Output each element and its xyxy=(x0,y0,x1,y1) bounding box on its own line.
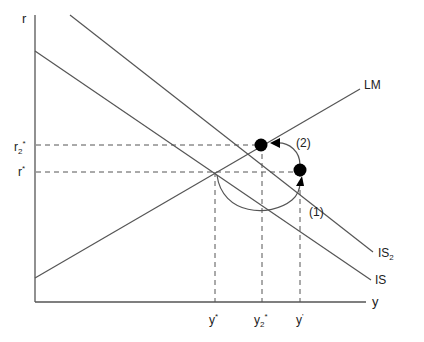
y-star-label: y* xyxy=(209,313,218,326)
is2-curve xyxy=(70,15,373,252)
lm-curve xyxy=(35,89,360,278)
r2-star-label: r2* xyxy=(14,140,26,156)
r-star-label: r* xyxy=(18,165,25,178)
y-prime-label: y' xyxy=(296,313,304,326)
is-lm-diagram xyxy=(0,0,424,342)
is-curve xyxy=(35,51,371,280)
new-equilibrium-dot xyxy=(255,139,268,152)
y2-star-label: y2* xyxy=(254,313,268,329)
is-label: IS xyxy=(375,274,386,286)
is2-label: IS2 xyxy=(378,247,394,262)
lm-label: LM xyxy=(364,79,381,91)
x-axis-label: y xyxy=(372,295,379,308)
arrow-1-icon xyxy=(296,176,304,186)
y-axis-label: r xyxy=(22,12,26,25)
annotation-2: (2) xyxy=(296,137,311,149)
annotation-1: (1) xyxy=(309,206,324,218)
arrow-2-icon xyxy=(270,138,280,148)
short-run-dot xyxy=(294,164,307,177)
adjustment-path-1 xyxy=(217,175,300,211)
